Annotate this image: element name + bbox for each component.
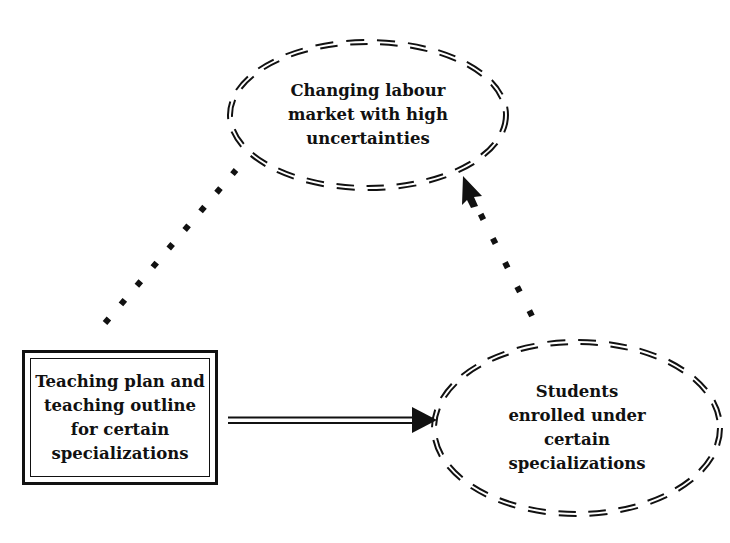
- dotted-line-teaching-to-labour: [105, 170, 236, 323]
- labour-market-label: Changing labour market with high uncerta…: [228, 79, 508, 151]
- dotted-arrow-students-to-labour: [462, 176, 532, 316]
- students-label: Students enrolled under certain speciali…: [432, 380, 722, 476]
- solid-arrow-teaching-to-students: [228, 407, 437, 433]
- teaching-plan-label: Teaching plan and teaching outline for c…: [22, 370, 218, 466]
